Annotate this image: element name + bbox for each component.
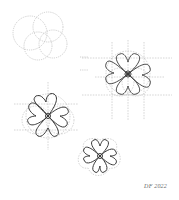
artist-signature: DF 2022 xyxy=(144,183,167,189)
stage-1-figure xyxy=(13,12,88,70)
sketch-canvas: DF 2022 xyxy=(0,0,179,200)
flower-sketches xyxy=(0,0,179,200)
stage-2-figure xyxy=(82,40,172,120)
stage-4-figure xyxy=(78,138,120,175)
stage-3-figure xyxy=(14,82,78,150)
